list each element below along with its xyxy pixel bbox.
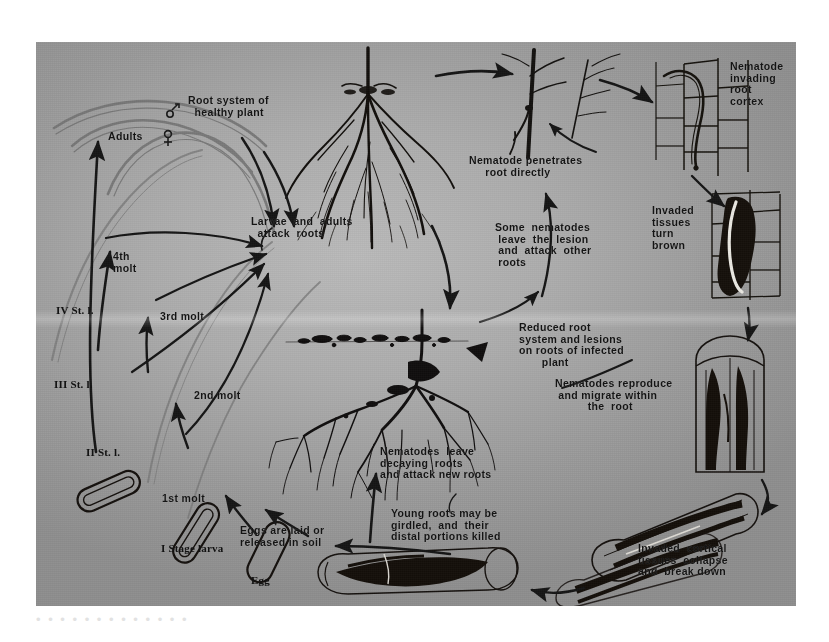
- label-root-system-healthy: Root system of healthy plant: [188, 95, 269, 118]
- ghost-bleed-text: • • • • • • • • • • • • •: [36, 612, 796, 634]
- label-nematode-penetrates: Nematode penetrates root directly: [469, 155, 582, 178]
- photographic-plate: Root system of healthy plant Nematode pe…: [36, 42, 796, 606]
- label-some-nematodes-leave: Some nematodes leave the lesion and atta…: [495, 222, 592, 268]
- label-adults: Adults: [108, 131, 143, 143]
- label-nematodes-leave-decaying: Nematodes leave decaying roots and attac…: [380, 446, 491, 481]
- label-molt-2: 2nd molt: [194, 390, 241, 402]
- root-penetration-illustration: [502, 50, 620, 158]
- label-stage-4: IV St. l.: [56, 304, 94, 316]
- label-stage-2: II St. l.: [86, 446, 120, 458]
- penetration-site: [525, 105, 533, 111]
- label-stage-3: III St. l.: [54, 378, 93, 390]
- label-invaded-cortical-collapse: Invaded cortical tissues collapse and br…: [638, 543, 728, 578]
- label-nematodes-reproduce: Nematodes reproduce and migrate within t…: [555, 378, 673, 413]
- girdled-roots-illustration: [318, 548, 518, 594]
- label-invaded-tissues-brown: Invaded tissues turn brown: [652, 205, 694, 251]
- healthy-root-crown-mass: [344, 86, 395, 95]
- label-molt-4: 4th molt: [113, 251, 137, 274]
- label-molt-1: 1st molt: [162, 493, 205, 505]
- label-young-roots-girdled: Young roots may be girdled, and their di…: [391, 508, 501, 543]
- label-larvae-adults-attack: Larvae and adults attack roots: [251, 216, 353, 239]
- label-egg: Egg: [251, 574, 270, 586]
- label-reduced-root-system: Reduced root system and lesions on roots…: [519, 322, 624, 368]
- label-nematode-invading-cortex: Nematode invading root cortex: [730, 61, 784, 107]
- label-larva-1: I Stage larva: [161, 542, 223, 554]
- label-eggs-laid: Eggs are laid or released in soil: [240, 525, 324, 548]
- label-molt-3: 3rd molt: [160, 311, 204, 323]
- reproduce-in-root-illustration: [696, 336, 764, 472]
- figure-page: Root system of healthy plant Nematode pe…: [0, 0, 829, 642]
